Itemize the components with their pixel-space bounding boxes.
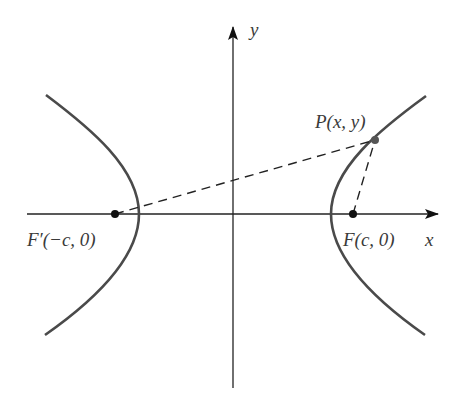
diagram-canvas (0, 0, 459, 414)
left-focus-label: F′(−c, 0) (27, 230, 96, 249)
left-focus-dot (111, 210, 119, 218)
x-axis-label: x (425, 230, 433, 249)
hyperbola-left-branch (45, 95, 139, 335)
dashed-line-p-to-left-focus (115, 140, 375, 214)
dashed-line-p-to-right-focus (353, 140, 375, 214)
hyperbola-diagram: y x P(x, y) F′(−c, 0) F(c, 0) (0, 0, 459, 414)
point-p-dot (371, 136, 379, 144)
right-focus-dot (349, 210, 357, 218)
y-axis-label: y (250, 20, 258, 39)
point-p-label: P(x, y) (315, 112, 366, 131)
right-focus-label: F(c, 0) (343, 230, 395, 249)
